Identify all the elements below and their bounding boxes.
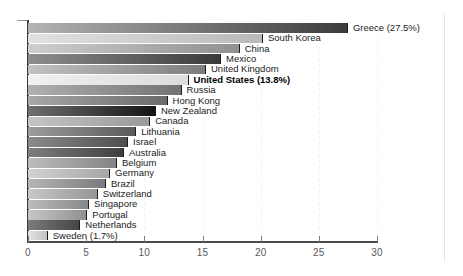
bar-row[interactable]: Israel bbox=[28, 137, 377, 146]
x-tick-5 bbox=[86, 236, 87, 242]
x-tick-label-15: 15 bbox=[197, 247, 209, 258]
bar-row[interactable]: Hong Kong bbox=[28, 96, 377, 105]
bar[interactable] bbox=[28, 54, 221, 63]
bar-row[interactable]: Singapore bbox=[28, 200, 377, 209]
bar[interactable] bbox=[28, 179, 106, 188]
bar-label: South Korea bbox=[265, 33, 323, 43]
bar[interactable] bbox=[28, 117, 150, 126]
x-tick-25 bbox=[319, 236, 320, 242]
gridline-30 bbox=[377, 22, 378, 240]
bar-row[interactable]: South Korea bbox=[28, 34, 377, 43]
x-tick-15 bbox=[203, 236, 204, 242]
x-tick-20 bbox=[261, 236, 262, 242]
bar-label: Sweden (1.7%) bbox=[50, 231, 120, 241]
bar[interactable] bbox=[28, 148, 124, 157]
bar-row[interactable]: Canada bbox=[28, 117, 377, 126]
bar[interactable] bbox=[28, 106, 156, 115]
x-tick-label-10: 10 bbox=[139, 247, 151, 258]
bar-chart: Greece (27.5%)South KoreaChinaMexicoUnit… bbox=[0, 0, 463, 276]
x-tick-30 bbox=[377, 236, 378, 242]
x-tick-label-25: 25 bbox=[313, 247, 325, 258]
x-tick-label-20: 20 bbox=[255, 247, 267, 258]
bar[interactable] bbox=[28, 200, 89, 209]
bar[interactable] bbox=[28, 34, 263, 43]
bar-row[interactable]: Brazil bbox=[28, 179, 377, 188]
bar[interactable] bbox=[28, 231, 48, 240]
bar-row[interactable]: Belgium bbox=[28, 158, 377, 167]
right-border-rule bbox=[444, 14, 445, 262]
bar-row[interactable]: Australia bbox=[28, 148, 377, 157]
bar[interactable] bbox=[28, 189, 98, 198]
x-tick-label-5: 5 bbox=[83, 247, 89, 258]
bar[interactable] bbox=[28, 169, 110, 178]
bar-row[interactable]: Lithuania bbox=[28, 127, 377, 136]
bar-row[interactable]: Germany bbox=[28, 169, 377, 178]
bar-row[interactable]: Greece (27.5%) bbox=[28, 23, 377, 32]
bar-row[interactable]: Russia bbox=[28, 85, 377, 94]
x-tick-0 bbox=[28, 236, 29, 242]
bar[interactable] bbox=[28, 158, 117, 167]
plot-area: Greece (27.5%)South KoreaChinaMexicoUnit… bbox=[28, 22, 377, 240]
bar[interactable] bbox=[28, 44, 240, 53]
x-tick-label-0: 0 bbox=[25, 247, 31, 258]
bar-row[interactable]: Switzerland bbox=[28, 189, 377, 198]
bar[interactable] bbox=[28, 137, 128, 146]
bar[interactable] bbox=[28, 23, 348, 32]
bar-row[interactable]: China bbox=[28, 44, 377, 53]
bar[interactable] bbox=[28, 220, 80, 229]
bar-row[interactable]: Mexico bbox=[28, 54, 377, 63]
bar[interactable] bbox=[28, 127, 136, 136]
bar-label: Greece (27.5%) bbox=[350, 23, 422, 33]
bar-row[interactable]: United States (13.8%) bbox=[28, 75, 377, 84]
bar-row[interactable]: United Kingdom bbox=[28, 65, 377, 74]
bar[interactable] bbox=[28, 65, 206, 74]
bar-row[interactable]: New Zealand bbox=[28, 106, 377, 115]
bar[interactable] bbox=[28, 210, 87, 219]
x-tick-10 bbox=[144, 236, 145, 242]
bar[interactable] bbox=[28, 85, 182, 94]
bar[interactable] bbox=[28, 75, 189, 84]
bar[interactable] bbox=[28, 96, 168, 105]
bar-row[interactable]: Portugal bbox=[28, 210, 377, 219]
bar-row[interactable]: Netherlands bbox=[28, 220, 377, 229]
x-tick-label-30: 30 bbox=[371, 247, 383, 258]
